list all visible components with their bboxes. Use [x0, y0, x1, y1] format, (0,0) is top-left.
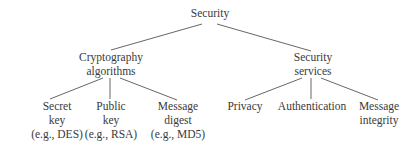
node-label-line: Cryptography [79, 50, 143, 64]
edge-security-to-services [217, 24, 311, 51]
node-message-digest: Message digest (e.g., MD5) [151, 99, 205, 141]
edge-cryptography-to-message-digest [120, 78, 177, 100]
node-label-line: algorithms [79, 64, 143, 78]
node-label-line: integrity [359, 113, 399, 127]
node-label: Security [191, 6, 229, 20]
security-taxonomy-diagram: Security Cryptography algorithms Securit… [0, 0, 417, 152]
node-message-integrity: Message integrity [359, 99, 399, 127]
edge-security-to-cryptography [111, 24, 202, 50]
node-label-line: (e.g., RSA) [85, 127, 137, 141]
edge-cryptography-to-secret-key [50, 78, 103, 99]
node-privacy: Privacy [227, 99, 262, 113]
node-public-key: Public key (e.g., RSA) [85, 99, 137, 141]
node-label-line: key [31, 113, 83, 127]
node-cryptography-algorithms: Cryptography algorithms [79, 50, 143, 78]
node-label-line: services [294, 64, 332, 78]
node-label-line: (e.g., DES) [31, 127, 83, 141]
node-label-line: Authentication [278, 99, 346, 113]
edge-services-to-message-integrity [321, 78, 378, 100]
edge-services-to-privacy [245, 78, 302, 100]
node-security-services: Security services [294, 50, 332, 78]
node-label-line: Public [85, 99, 137, 113]
node-secret-key: Secret key (e.g., DES) [31, 99, 83, 141]
node-label-line: Security [294, 50, 332, 64]
node-label-line: key [85, 113, 137, 127]
node-label-line: Secret [31, 99, 83, 113]
node-authentication: Authentication [278, 99, 346, 113]
node-label-line: digest [151, 113, 205, 127]
node-label-line: Message [151, 99, 205, 113]
node-security: Security [191, 6, 229, 20]
node-label-line: Privacy [227, 99, 262, 113]
node-label-line: (e.g., MD5) [151, 127, 205, 141]
node-label-line: Message [359, 99, 399, 113]
